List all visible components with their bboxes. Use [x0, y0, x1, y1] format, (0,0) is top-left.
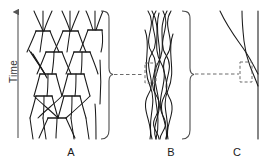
figure-canvas: Time A B C	[0, 0, 269, 166]
panel-label-a: A	[61, 146, 81, 158]
panel-b-bracket	[182, 11, 194, 139]
time-axis-label: Time	[8, 48, 19, 96]
panel-c-highlight-box	[240, 62, 252, 82]
panel-c-lineages	[220, 11, 258, 139]
panel-label-b: B	[161, 146, 181, 158]
panel-c-descending-curve	[220, 11, 258, 74]
panel-b-braid	[145, 11, 173, 139]
figure-vector-layer	[0, 0, 269, 166]
panel-label-c: C	[227, 146, 247, 158]
panel-a-network	[27, 11, 103, 139]
panel-c-upper-branch	[242, 11, 258, 86]
